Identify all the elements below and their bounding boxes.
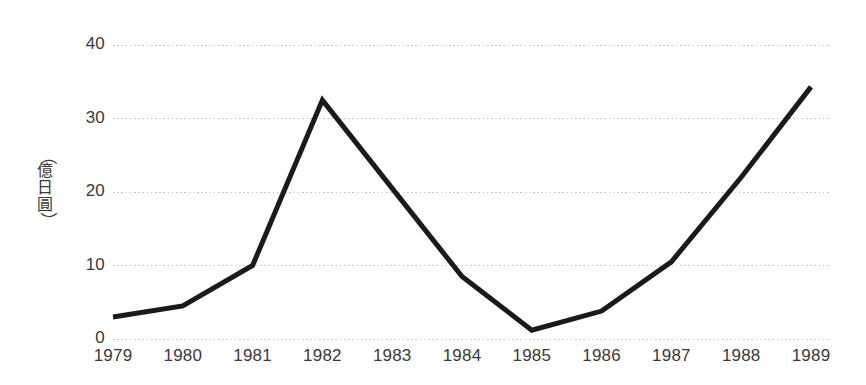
y-tick-label-0: 0 bbox=[65, 328, 105, 348]
x-tick-label-1983: 1983 bbox=[357, 346, 427, 366]
x-tick-label-1980: 1980 bbox=[148, 346, 218, 366]
gridlines bbox=[113, 45, 830, 339]
y-tick-label-40: 40 bbox=[65, 34, 105, 54]
x-tick-label-1982: 1982 bbox=[287, 346, 357, 366]
data-series-line bbox=[113, 87, 811, 330]
chart-plot-area bbox=[0, 0, 866, 385]
x-tick-label-1984: 1984 bbox=[427, 346, 497, 366]
y-axis-label: （ 億 日 圓 ） bbox=[33, 150, 57, 227]
y-axis-label-paren-open: （ bbox=[39, 145, 52, 169]
line-chart: （ 億 日 圓 ） 010203040 19791980198119821983… bbox=[0, 0, 866, 385]
x-tick-label-1979: 1979 bbox=[78, 346, 148, 366]
y-axis-label-paren-close: ） bbox=[39, 209, 52, 233]
series-line bbox=[113, 87, 811, 330]
x-tick-label-1981: 1981 bbox=[218, 346, 288, 366]
y-axis-label-char-nichi: 日 bbox=[33, 180, 57, 197]
y-tick-label-10: 10 bbox=[65, 255, 105, 275]
x-tick-label-1985: 1985 bbox=[497, 346, 567, 366]
x-tick-label-1987: 1987 bbox=[636, 346, 706, 366]
y-tick-label-20: 20 bbox=[65, 181, 105, 201]
x-tick-label-1986: 1986 bbox=[567, 346, 637, 366]
y-tick-label-30: 30 bbox=[65, 108, 105, 128]
x-tick-label-1989: 1989 bbox=[776, 346, 846, 366]
x-tick-label-1988: 1988 bbox=[706, 346, 776, 366]
